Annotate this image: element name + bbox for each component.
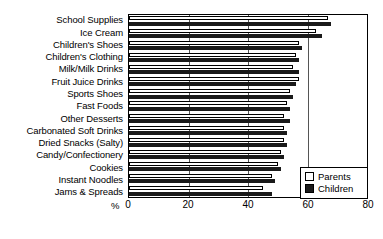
bar-parents — [129, 186, 263, 190]
bar-parents — [129, 89, 290, 93]
legend-label-children: Children — [318, 183, 353, 195]
bar-parents — [129, 150, 281, 154]
bar-children — [129, 34, 322, 38]
hollow-square-icon — [305, 172, 314, 181]
category-label: Children's Shoes — [0, 39, 126, 51]
bar-parents — [129, 162, 278, 166]
bar-group — [129, 15, 367, 27]
x-tick-label: 60 — [302, 200, 313, 210]
bar-children — [129, 143, 287, 147]
category-axis-labels: School SuppliesIce CreamChildren's Shoes… — [0, 14, 126, 198]
bar-group — [129, 124, 367, 136]
bar-parents — [129, 174, 272, 178]
bar-group — [129, 39, 367, 51]
bar-group — [129, 112, 367, 124]
category-label: Cookies — [0, 161, 126, 173]
bar-children — [129, 192, 272, 196]
bar-group — [129, 51, 367, 63]
legend-item-children: Children — [305, 183, 363, 195]
bar-parents — [129, 114, 284, 118]
bar-children — [129, 46, 302, 50]
horizontal-bar-chart: School SuppliesIce CreamChildren's Shoes… — [0, 0, 383, 239]
category-label: Carbonated Soft Drinks — [0, 124, 126, 136]
x-tick-label: 80 — [362, 200, 373, 210]
category-label: School Supplies — [0, 14, 126, 26]
bar-group — [129, 76, 367, 88]
bar-group — [129, 149, 367, 161]
legend-item-parents: Parents — [305, 171, 363, 183]
category-label: Children's Clothing — [0, 51, 126, 63]
bar-children — [129, 119, 290, 123]
category-label: Instant Noodles — [0, 173, 126, 185]
bar-group — [129, 88, 367, 100]
category-label: Fast Foods — [0, 100, 126, 112]
bar-parents — [129, 29, 316, 33]
bar-children — [129, 58, 299, 62]
bar-children — [129, 70, 299, 74]
x-tick-label: 20 — [182, 200, 193, 210]
x-tick-label: 0 — [125, 200, 131, 210]
bar-children — [129, 155, 284, 159]
category-label: Sports Shoes — [0, 88, 126, 100]
bar-group — [129, 136, 367, 148]
x-axis-unit-label: % — [111, 201, 119, 211]
filled-square-icon — [305, 184, 314, 193]
bar-parents — [129, 77, 299, 81]
category-label: Other Desserts — [0, 112, 126, 124]
bar-children — [129, 167, 281, 171]
bar-children — [129, 107, 290, 111]
bar-children — [129, 95, 293, 99]
bar-parents — [129, 101, 287, 105]
category-label: Candy/Confectionery — [0, 149, 126, 161]
bar-parents — [129, 16, 328, 20]
bar-children — [129, 131, 287, 135]
category-label: Fruit Juice Drinks — [0, 75, 126, 87]
bar-parents — [129, 53, 296, 57]
bar-group — [129, 100, 367, 112]
category-label: Ice Cream — [0, 26, 126, 38]
category-label: Jams & Spreads — [0, 186, 126, 198]
bar-parents — [129, 41, 299, 45]
bar-group — [129, 64, 367, 76]
category-label: Dried Snacks (Salty) — [0, 137, 126, 149]
bar-children — [129, 22, 331, 26]
bar-group — [129, 27, 367, 39]
bar-parents — [129, 65, 293, 69]
x-tick-label: 40 — [242, 200, 253, 210]
chart-legend: Parents Children — [300, 167, 368, 199]
x-axis-ticks: 020406080 — [128, 198, 368, 218]
category-label: Milk/Milk Drinks — [0, 63, 126, 75]
legend-label-parents: Parents — [318, 171, 351, 183]
bar-children — [129, 82, 296, 86]
bar-parents — [129, 138, 284, 142]
bar-children — [129, 179, 275, 183]
bar-parents — [129, 126, 284, 130]
